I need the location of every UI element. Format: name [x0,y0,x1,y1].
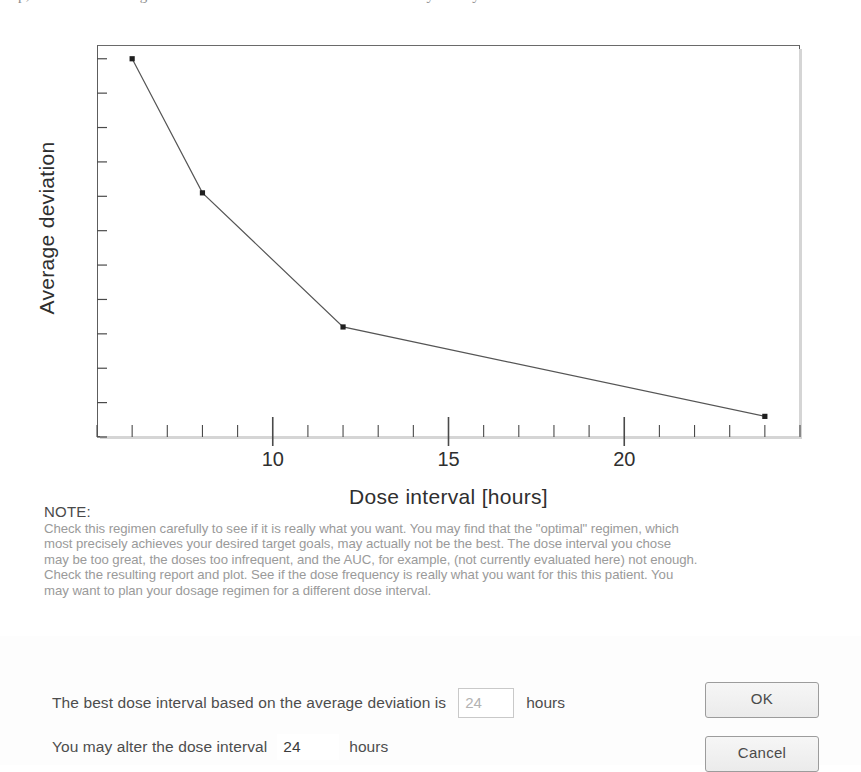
best-dose-interval-row: The best dose interval based on the aver… [52,688,565,718]
best-dose-interval-label: The best dose interval based on the aver… [52,694,446,712]
best-dose-interval-field: 24 [458,688,514,718]
alter-dose-interval-input[interactable]: 24 [277,734,339,760]
dialog-form-area: The best dose interval based on the aver… [0,636,861,765]
note-line: most precisely achieves your desired tar… [44,536,834,551]
clipped-text: p, and see the average deviation as a fu… [18,0,514,4]
x-axis-ticks [97,417,800,446]
ok-button[interactable]: OK [705,682,819,718]
series-line [132,59,765,417]
note-line: Check the resulting report and plot. See… [44,567,834,582]
best-dose-interval-unit: hours [526,694,565,712]
alter-dose-interval-unit: hours [349,738,388,756]
note-line: may be too great, the doses too infreque… [44,552,834,567]
cancel-button[interactable]: Cancel [705,736,819,772]
alter-dose-interval-label: You may alter the dose interval [52,738,267,756]
data-point [340,324,345,329]
x-axis-tick-labels: 101520 [0,20,861,50]
note-body: Check this regimen carefully to see if i… [44,521,834,598]
y-axis-title: Average deviation [35,78,59,378]
alter-dose-interval-row: You may alter the dose interval 24 hours [52,732,388,762]
average-deviation-chart: 101520 Average deviation Dose interval [… [0,20,861,500]
note-block: NOTE: Check this regimen carefully to se… [44,503,834,598]
x-tick-label: 20 [599,448,649,471]
x-tick-label: 10 [248,448,298,471]
note-line: may want to plan your dosage regimen for… [44,583,834,598]
data-point [200,190,205,195]
chart-plot-svg [97,45,800,437]
series-data-points [130,56,768,419]
clipped-top-text-strip: p, and see the average deviation as a fu… [0,0,861,16]
x-tick-label: 15 [424,448,474,471]
note-line: Check this regimen carefully to see if i… [44,521,834,536]
data-point [130,56,135,61]
data-point [762,414,767,419]
y-axis-ticks [97,59,107,437]
note-heading: NOTE: [44,503,834,520]
